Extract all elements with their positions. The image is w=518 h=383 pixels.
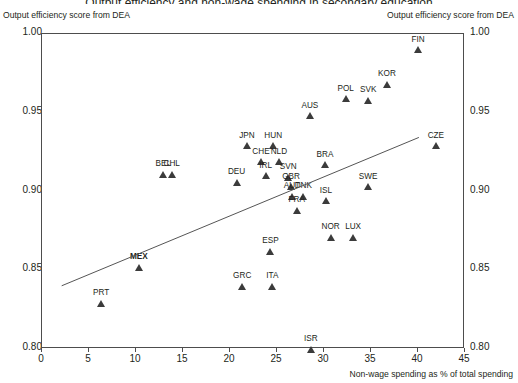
data-point-label: GRC [233,271,251,280]
x-tick-mark [135,348,136,352]
data-point-label: HUN [264,131,282,140]
y-tick-label-right: 0.95 [470,105,489,116]
plot-area: FINKORSVKPOLAUSCZEJPNHUNCHENLDBRABELCHLI… [41,33,464,348]
x-tick-mark [41,348,42,352]
data-point-label: NLD [271,147,287,156]
y-tick-label-right: 1.00 [470,26,489,37]
x-tick-label: 35 [364,353,375,364]
triangle-marker-icon [135,264,143,271]
triangle-marker-icon [243,142,251,149]
y-tick-label-left: 0.95 [23,105,42,116]
data-point-label: SVN [280,162,297,171]
triangle-marker-icon [364,97,372,104]
y-tick-label-right: 0.90 [470,184,489,195]
x-tick-mark [88,348,89,352]
triangle-marker-icon [364,183,372,190]
x-tick-label: 25 [270,353,281,364]
data-point-label: NOR [321,222,339,231]
x-tick-mark [370,348,371,352]
y-tick-label-right: 0.80 [470,341,489,352]
triangle-marker-icon [342,95,350,102]
triangle-marker-icon [233,179,241,186]
y-tick-label-left: 1.00 [23,26,42,37]
x-axis-title: Non-wage spending as % of total spending [350,369,513,379]
triangle-marker-icon [268,283,276,290]
data-point-label: KOR [378,69,396,78]
data-point-label: DEU [228,167,245,176]
data-point-label: CHL [164,159,180,168]
data-point-label: LUX [345,222,361,231]
data-point-label: PRT [93,288,109,297]
data-point-label: BRA [317,150,334,159]
triangle-marker-icon [168,171,176,178]
triangle-marker-icon [306,112,314,119]
y-tick-label-left: 0.80 [23,341,42,352]
x-tick-label: 5 [85,353,91,364]
data-point-label: CZE [428,131,444,140]
x-tick-mark [464,348,465,352]
x-tick-mark [182,348,183,352]
y-tick-label-left: 0.90 [23,184,42,195]
y-axis-caption-left: Output efficiency score from DEA [3,10,130,20]
data-point-label: ITA [266,271,278,280]
data-point-label: SVK [360,85,376,94]
triangle-marker-icon [321,161,329,168]
triangle-marker-icon [97,300,105,307]
data-point-label: SWE [359,172,378,181]
triangle-marker-icon [327,234,335,241]
triangle-marker-icon [159,171,167,178]
x-tick-mark [229,348,230,352]
data-point-label: ISR [304,334,318,343]
data-point-label: JPN [239,131,254,140]
triangle-marker-icon [322,197,330,204]
y-tick-label-right: 0.85 [470,262,489,273]
data-point-label: IRL [259,161,272,170]
x-tick-label: 10 [129,353,140,364]
x-tick-mark [276,348,277,352]
chart-title: Output efficiency and non-wage spending … [0,0,518,4]
data-point-label: POL [337,84,353,93]
triangle-marker-icon [383,81,391,88]
triangle-marker-icon [414,46,422,53]
triangle-marker-icon [266,248,274,255]
triangle-marker-icon [293,207,301,214]
x-tick-label: 15 [176,353,187,364]
x-tick-mark [417,348,418,352]
data-point-label: MEX [130,252,148,261]
triangle-marker-icon [262,172,270,179]
x-tick-label: 20 [223,353,234,364]
data-point-label: FIN [411,35,424,44]
data-point-label: FRA [289,195,305,204]
x-tick-label: 30 [317,353,328,364]
data-point-label: AUS [301,101,318,110]
y-tick-label-left: 0.85 [23,262,42,273]
triangle-marker-icon [432,142,440,149]
data-point-label: CHE [252,147,269,156]
data-point-label: DNK [295,181,312,190]
x-tick-label: 40 [411,353,422,364]
triangle-marker-icon [307,346,315,353]
triangle-marker-icon [238,283,246,290]
x-tick-label: 0 [38,353,44,364]
chart-figure: Output efficiency and non-wage spending … [0,0,518,383]
x-tick-mark [323,348,324,352]
y-axis-caption-right: Output efficiency score from DEA [387,10,514,20]
data-point-label: ISL [320,186,332,195]
data-point-label: ESP [262,236,278,245]
data-point-label: GBR [282,172,300,181]
x-tick-label: 45 [458,353,469,364]
triangle-marker-icon [349,234,357,241]
